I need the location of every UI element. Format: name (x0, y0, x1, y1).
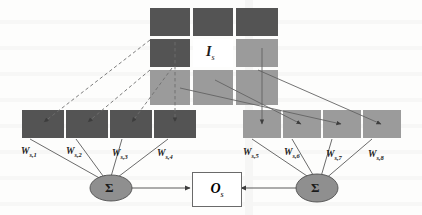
dashed-edge-group (44, 40, 175, 122)
output-box: Os (192, 172, 242, 207)
right-sum-symbol: Σ (311, 180, 320, 196)
solid-edge-6 (215, 80, 301, 124)
weight-label-2: Ws,2 (66, 146, 82, 158)
weight-label-7: Ws,7 (326, 149, 342, 161)
dashed-edge-3 (132, 68, 172, 122)
dashed-edge-2 (88, 70, 150, 122)
weight-label-4: Ws,4 (157, 148, 173, 160)
weight-label-1: Ws,1 (21, 146, 37, 158)
weight-label-6: Ws,6 (284, 147, 300, 159)
weight-label-3: Ws,3 (112, 148, 128, 160)
solid-edge-8 (258, 70, 381, 124)
diagram-canvas: Is Σ Σ Os Ws,1 Ws,2 Ws,3 Ws,4 Ws,5 Ws,6 … (0, 0, 422, 215)
left-sum-symbol: Σ (105, 180, 114, 196)
right-weight-edge-group (252, 139, 372, 180)
weight-label-5: Ws,5 (243, 147, 259, 159)
dashed-edge-1 (44, 40, 150, 122)
input-grid-label: Is (206, 44, 215, 62)
left-weight-edge-group (30, 139, 168, 180)
weight-label-8: Ws,8 (368, 149, 384, 161)
solid-edge-7 (180, 88, 341, 124)
output-label: Os (210, 181, 223, 199)
